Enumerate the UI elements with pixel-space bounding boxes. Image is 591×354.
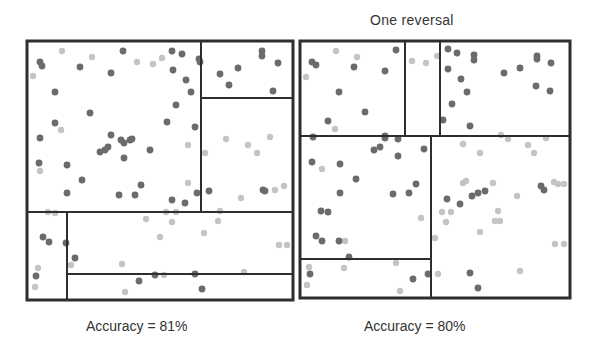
dark-point (147, 147, 154, 154)
dark-point (40, 234, 47, 241)
light-point (215, 218, 221, 224)
dark-point (467, 123, 474, 130)
dark-point (421, 146, 428, 153)
light-point (37, 168, 43, 174)
dark-point (183, 77, 190, 84)
dark-point (395, 153, 402, 160)
light-point (333, 48, 339, 54)
light-point (30, 73, 36, 79)
light-point (319, 166, 325, 172)
light-point (150, 61, 156, 67)
light-point (267, 134, 273, 140)
light-point (418, 215, 424, 221)
dark-point (116, 192, 123, 199)
light-point (159, 55, 165, 61)
dark-point (169, 48, 176, 55)
light-point (342, 238, 348, 244)
dark-point (313, 233, 320, 240)
dark-point (362, 109, 369, 116)
dark-point (192, 124, 199, 131)
dark-point (206, 188, 213, 195)
light-point (58, 127, 64, 133)
light-point (354, 54, 360, 60)
dark-point (319, 238, 326, 245)
dark-point (371, 147, 378, 154)
dark-point (410, 276, 417, 283)
dark-point (79, 177, 86, 184)
dark-point (120, 48, 127, 55)
dark-point (37, 135, 44, 142)
dark-point (501, 70, 508, 77)
light-point (525, 142, 531, 148)
light-point (490, 180, 496, 186)
dark-point (188, 89, 195, 96)
dark-point (382, 68, 389, 75)
dark-point (108, 132, 115, 139)
dark-point (199, 286, 206, 293)
dark-point (406, 190, 413, 197)
dark-point (475, 190, 482, 197)
light-point (272, 187, 278, 193)
light-point (332, 126, 338, 132)
dark-point (108, 70, 115, 77)
dark-point (351, 64, 358, 71)
light-point (517, 268, 523, 274)
light-point (561, 241, 567, 247)
dark-point (325, 209, 332, 216)
dark-point (64, 162, 71, 169)
light-point (555, 181, 561, 187)
light-point (185, 180, 191, 186)
dark-point (138, 182, 145, 189)
dark-point (72, 255, 79, 262)
dark-point (169, 197, 176, 204)
light-point (303, 74, 309, 80)
dark-point (457, 201, 464, 208)
light-point (134, 59, 140, 65)
decision-tree-partition-figure: One reversal Accuracy = 81% Accuracy = 8… (0, 0, 591, 354)
light-point (432, 235, 438, 241)
light-point (89, 54, 95, 60)
light-point (306, 264, 312, 270)
dark-point (77, 64, 84, 71)
dark-point (194, 190, 201, 197)
dark-point (548, 60, 555, 67)
light-point (443, 219, 449, 225)
dark-point (471, 57, 478, 64)
light-point (304, 282, 310, 288)
left-panel (27, 41, 293, 300)
light-point (202, 150, 208, 156)
light-point (495, 208, 501, 214)
dark-point (129, 136, 136, 143)
dark-point (262, 188, 269, 195)
light-point (460, 141, 466, 147)
light-point (157, 234, 163, 240)
dark-point (173, 102, 180, 109)
light-point (397, 288, 403, 294)
dark-point (475, 285, 482, 292)
dark-point (547, 88, 554, 95)
dark-point (87, 110, 94, 117)
light-point (59, 48, 65, 54)
dark-point (121, 155, 128, 162)
dark-point (458, 76, 465, 83)
light-point (423, 60, 429, 66)
dark-point (52, 89, 59, 96)
dark-point (226, 82, 233, 89)
light-point (32, 284, 38, 290)
light-point (341, 265, 347, 271)
light-point (439, 209, 445, 215)
light-point (169, 219, 175, 225)
light-point (284, 242, 290, 248)
dark-point (235, 65, 242, 72)
dark-point (377, 144, 384, 151)
dark-point (46, 239, 53, 246)
light-point (238, 195, 244, 201)
light-point (497, 218, 503, 224)
light-point (477, 150, 483, 156)
light-point (223, 136, 229, 142)
dark-point (39, 63, 46, 70)
dark-point (464, 89, 471, 96)
dark-point (467, 270, 474, 277)
dark-point (445, 66, 452, 73)
light-point (119, 261, 125, 267)
